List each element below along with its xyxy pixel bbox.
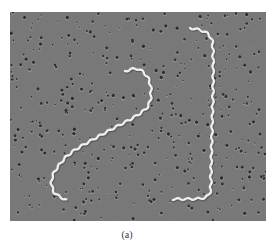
micrograph-svg	[10, 12, 266, 221]
figure-caption: (a)	[0, 229, 254, 240]
micrograph-image	[10, 12, 266, 221]
